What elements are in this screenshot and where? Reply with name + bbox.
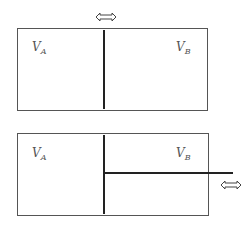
label-va-top: VA — [32, 40, 46, 56]
label-vb-bottom: VB — [176, 146, 191, 162]
piston-rod — [104, 172, 233, 174]
label-vb-top: VB — [176, 40, 191, 56]
label-va-bottom: VA — [32, 146, 46, 162]
partition-top — [103, 30, 105, 109]
double-arrow-icon — [220, 180, 242, 190]
double-arrow-icon — [95, 12, 117, 22]
partition-bottom — [103, 135, 105, 214]
